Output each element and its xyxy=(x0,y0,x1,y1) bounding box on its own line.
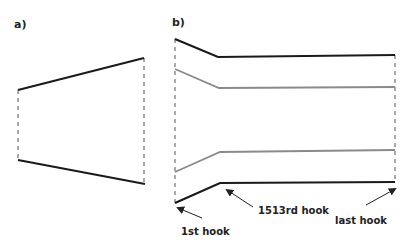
annotation-1513rd-hook: 1513rd hook xyxy=(227,190,329,216)
panel-a-label: a) xyxy=(14,18,26,31)
panel-b-inner-top-line xyxy=(175,69,395,88)
first-hook-label: 1st hook xyxy=(181,226,230,237)
panel-b-outer-bottom-line xyxy=(175,182,395,203)
hook-geometry-diagram: a) b) 1st hook 1513rd hook last hook xyxy=(0,0,409,247)
panel-a: a) xyxy=(14,18,145,184)
arrow-icon xyxy=(366,189,395,205)
panel-b-label: b) xyxy=(172,16,185,29)
last-hook-label: last hook xyxy=(335,215,387,226)
panel-b: b) 1st hook 1513rd hook last hook xyxy=(172,16,395,237)
annotation-first-hook: 1st hook xyxy=(178,208,230,237)
annotation-last-hook: last hook xyxy=(335,189,395,226)
panel-b-inner-bottom-line xyxy=(175,150,395,172)
panel-b-outer-top-line xyxy=(175,39,395,57)
1513rd-hook-label: 1513rd hook xyxy=(258,205,329,216)
panel-a-top-line xyxy=(18,58,144,90)
arrow-icon xyxy=(227,190,253,207)
panel-a-bottom-line xyxy=(18,160,145,184)
arrow-icon xyxy=(178,208,202,218)
